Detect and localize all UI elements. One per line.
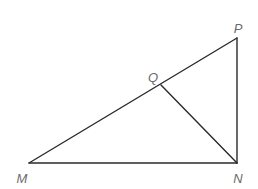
triangle-diagram — [0, 0, 258, 189]
vertex-label-q: Q — [148, 71, 158, 84]
segment-mp — [29, 38, 237, 163]
vertex-label-p: P — [234, 22, 243, 35]
vertex-label-n: N — [233, 172, 242, 185]
vertex-label-m: M — [17, 172, 28, 185]
segment-qn — [161, 85, 237, 163]
